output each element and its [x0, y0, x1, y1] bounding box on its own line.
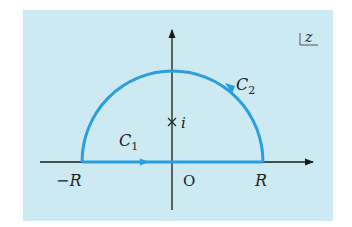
- contour-diagram: i C1 C2 −R O R z: [0, 0, 352, 227]
- svg-text:z: z: [304, 29, 313, 45]
- c1-label: C1: [119, 131, 138, 153]
- c2-label: C2: [236, 75, 255, 97]
- pole-label: i: [181, 114, 186, 132]
- origin-label: O: [183, 172, 195, 190]
- neg-r-label: −R: [56, 171, 81, 190]
- c1-direction-arrow-icon: [140, 159, 149, 166]
- pos-r-label: R: [254, 171, 267, 190]
- plane-label: z: [300, 29, 318, 45]
